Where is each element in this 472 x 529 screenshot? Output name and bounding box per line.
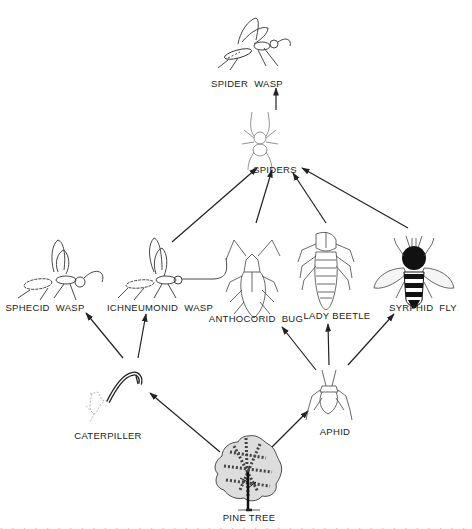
- food-web-diagram: SPIDERWASP SPIDERS SPHECIDWASP ICHNEUMON…: [0, 0, 472, 529]
- label-word: WASP: [56, 302, 85, 313]
- arrow-ladybeetle-to-spiders: [293, 173, 326, 223]
- wasp-icon: [118, 238, 227, 300]
- label-word: WASP: [254, 78, 283, 89]
- arrow-caterpiller-to-ichneumonid: [138, 314, 146, 358]
- label-word: LADY BEETLE: [303, 310, 370, 321]
- arrows: [86, 88, 408, 452]
- arrow-syrphid-to-spiders: [302, 168, 408, 228]
- bug-icon: [226, 240, 280, 318]
- node-label-aphid: APHID: [320, 426, 351, 437]
- cropped-caption-remnant: . . . . . . . . . . . . . . . . . . . . …: [0, 523, 472, 529]
- node-label-ichneumonid-wasp: ICHNEUMONIDWASP: [107, 302, 213, 313]
- label-word: BUG: [282, 313, 304, 324]
- node-label-syrphid-fly: SYRPHIDFLY: [389, 302, 457, 313]
- arrow-anthocorid-to-spiders: [256, 170, 272, 223]
- node-label-spiders: SPIDERS: [253, 164, 297, 175]
- node-label-sphecid-wasp: SPHECIDWASP: [5, 302, 84, 313]
- tree-icon: [215, 436, 282, 510]
- fly-icon: [374, 236, 454, 308]
- spider-icon: [242, 112, 278, 170]
- label-word: SPIDERS: [253, 164, 297, 175]
- label-word: FLY: [439, 302, 457, 313]
- label-word: ICHNEUMONID: [107, 302, 178, 313]
- arrow-aphid-to-syrphid: [348, 314, 394, 365]
- node-label-pine-tree: PINE TREE: [223, 512, 276, 523]
- arrow-caterpiller-to-sphecid: [86, 313, 123, 358]
- node-label-spider-wasp: SPIDERWASP: [211, 78, 283, 89]
- arrow-pinetree-to-aphid: [267, 411, 308, 452]
- label-word: SPIDER: [211, 78, 248, 89]
- beetle-larva-icon: [298, 232, 354, 310]
- label-word: SPHECID: [5, 302, 49, 313]
- arrow-ichneumonid-to-spiders: [172, 168, 257, 242]
- aphid-icon: [306, 370, 352, 420]
- label-word: CATERPILLER: [74, 430, 142, 441]
- label-word: ANTHOCORID: [209, 313, 276, 324]
- wasp-icon: [18, 240, 103, 300]
- arrow-aphid-to-anthocorid: [282, 327, 316, 370]
- node-label-anthocorid-bug: ANTHOCORIDBUG: [209, 313, 303, 324]
- wasp-icon: [218, 18, 290, 70]
- node-label-caterpiller: CATERPILLER: [74, 430, 142, 441]
- label-word: APHID: [320, 426, 351, 437]
- caterpillar-icon: [86, 374, 141, 422]
- label-word: WASP: [184, 302, 213, 313]
- label-word: SYRPHID: [389, 302, 433, 313]
- arrow-aphid-to-ladybeetle: [328, 324, 329, 365]
- node-label-lady-beetle: LADY BEETLE: [303, 310, 370, 321]
- label-word: PINE TREE: [223, 512, 276, 523]
- arrow-pinetree-to-caterpiller: [150, 393, 220, 452]
